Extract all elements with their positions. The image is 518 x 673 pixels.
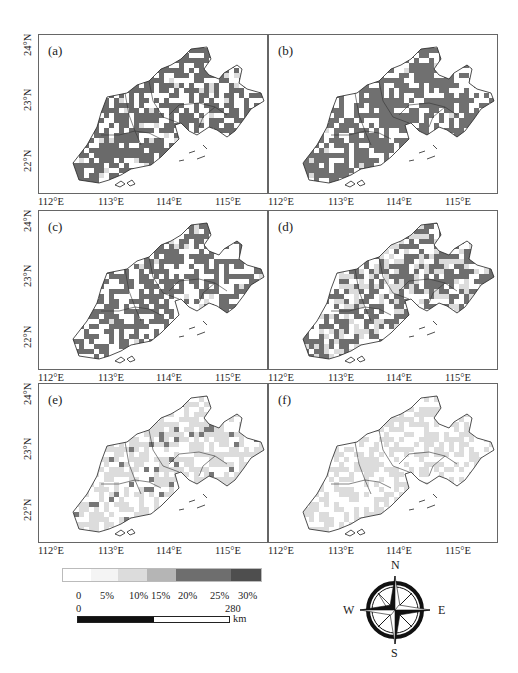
y-tick-label: 24°N [22,383,33,405]
x-tick-label: 112°E [268,372,294,383]
x-tick-label: 115°E [445,196,471,207]
x-tick-label: 113°E [328,545,354,556]
legend-tick: 30% [238,590,257,601]
panel-label: (d) [278,219,293,235]
map-panel-e: (e) [38,383,268,543]
x-tick-label: 115°E [445,545,471,556]
legend-swatch-10 [118,569,147,581]
scale-bar [77,616,230,623]
x-tick-label: 113°E [328,372,354,383]
legend-tick: 5% [100,590,114,601]
compass-east-label: E [438,603,445,618]
legend-tick: 15% [151,590,170,601]
x-tick-label: 112°E [38,545,64,556]
x-tick-label: 112°E [268,196,294,207]
map-panel-b: (b) [268,34,498,194]
legend-swatch-30 [231,569,261,581]
x-tick-label: 114°E [156,196,182,207]
legend-tick: 20% [178,590,197,601]
y-tick-label: 23°N [22,89,33,111]
scale-start-label: 0 [76,603,81,614]
y-tick-label: 24°N [22,34,33,56]
x-tick-label: 115°E [445,372,471,383]
legend-colorbar [62,568,262,582]
x-tick-label: 113°E [98,196,124,207]
x-tick-label: 112°E [38,196,64,207]
scale-unit-label: km [233,613,246,624]
panel-label: (c) [48,219,62,235]
legend-swatch-0 [63,569,91,581]
legend-tick: 0 [76,590,81,601]
y-tick-label: 22°N [22,150,33,172]
legend-tick: 25% [210,590,229,601]
x-tick-label: 115°E [215,372,241,383]
x-tick-label: 115°E [215,196,241,207]
x-tick-label: 114°E [156,372,182,383]
panel-label: (f) [278,392,291,408]
map-panel-a: (a) [38,34,268,194]
panel-label: (e) [48,392,62,408]
x-tick-label: 112°E [268,545,294,556]
compass-rose-icon: N S W E [335,562,455,670]
legend-swatch-5 [91,569,119,581]
y-tick-label: 22°N [22,499,33,521]
compass-north-label: N [391,558,400,573]
y-tick-label: 23°N [22,265,33,287]
x-tick-label: 113°E [98,545,124,556]
panel-label: (b) [278,43,293,59]
x-tick-label: 114°E [156,545,182,556]
x-tick-label: 114°E [386,196,412,207]
map-panel-d: (d) [268,210,498,370]
x-tick-label: 114°E [386,545,412,556]
legend-swatch-20 [176,569,231,581]
legend-tick: 10% [129,590,148,601]
x-tick-label: 115°E [215,545,241,556]
panel-label: (a) [48,43,62,59]
map-panel-c: (c) [38,210,268,370]
y-tick-label: 22°N [22,326,33,348]
map-panel-f: (f) [268,383,498,543]
legend-swatch-15 [147,569,176,581]
x-tick-label: 112°E [38,372,64,383]
compass-south-label: S [391,646,398,661]
x-tick-label: 114°E [386,372,412,383]
y-tick-label: 23°N [22,438,33,460]
compass-west-label: W [343,603,354,618]
x-tick-label: 113°E [98,372,124,383]
y-tick-label: 24°N [22,210,33,232]
x-tick-label: 113°E [328,196,354,207]
